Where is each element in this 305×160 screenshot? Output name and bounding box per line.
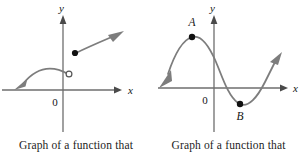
y-axis-label-left: y [58, 2, 64, 14]
point-b-label: B [236, 110, 243, 122]
caption-right: Graph of a function that [152, 139, 305, 151]
plot-right: A B 0 x y [152, 0, 305, 140]
curve-left-branch [14, 69, 68, 90]
origin-label-right: 0 [202, 94, 208, 106]
curve-cubic [159, 37, 282, 105]
x-axis-label-left: x [127, 84, 133, 96]
figure-panel-left: 0 x y Graph of a function that [0, 0, 152, 160]
closed-dot [72, 50, 78, 56]
x-axis-label-right: x [292, 82, 298, 94]
open-dot [66, 71, 72, 77]
origin-label-left: 0 [52, 96, 58, 108]
figure-panel-right: A B 0 x y Graph of a function that [152, 0, 305, 160]
curve-right-branch [76, 31, 124, 53]
point-b-marker [237, 101, 243, 107]
plot-left: 0 x y [0, 0, 152, 140]
y-axis-right [211, 15, 218, 132]
y-axis-label-right: y [209, 2, 215, 14]
x-axis-right [158, 85, 288, 92]
point-a-label: A [187, 16, 196, 28]
point-a-marker [189, 34, 195, 40]
figure-container: 0 x y Graph of a function that [0, 0, 305, 160]
caption-left: Graph of a function that [0, 139, 152, 151]
